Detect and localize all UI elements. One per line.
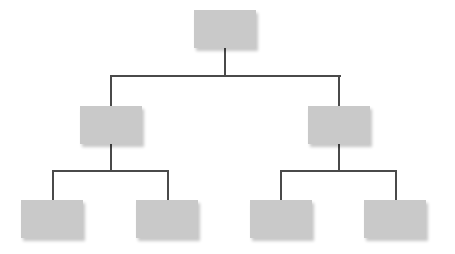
connector-to-leaf-1 xyxy=(52,170,54,200)
node-root xyxy=(194,10,256,48)
tree-diagram xyxy=(0,0,455,254)
node-leaf-4 xyxy=(364,200,426,238)
connector-level1-bar xyxy=(110,75,341,77)
connector-right-leaves-bar xyxy=(280,170,397,172)
connector-mid-left-down xyxy=(110,144,112,172)
connector-to-leaf-2 xyxy=(167,170,169,200)
node-leaf-2 xyxy=(136,200,198,238)
connector-to-leaf-4 xyxy=(395,170,397,200)
connector-left-leaves-bar xyxy=(52,170,169,172)
connector-to-leaf-3 xyxy=(280,170,282,200)
node-leaf-3 xyxy=(250,200,312,238)
connector-root-down xyxy=(224,48,226,77)
connector-to-mid-left xyxy=(110,75,112,106)
node-leaf-1 xyxy=(21,200,83,238)
connector-to-mid-right xyxy=(338,75,340,106)
node-mid-right xyxy=(308,106,370,144)
connector-mid-right-down xyxy=(338,144,340,172)
node-mid-left xyxy=(80,106,142,144)
